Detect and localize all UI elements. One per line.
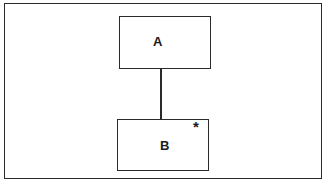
- asterisk-marker-icon: *: [193, 118, 199, 135]
- node-a-box: [119, 16, 211, 69]
- node-b-label: B: [160, 138, 169, 153]
- edge-a-b: [160, 68, 162, 119]
- node-a-label: A: [153, 34, 162, 49]
